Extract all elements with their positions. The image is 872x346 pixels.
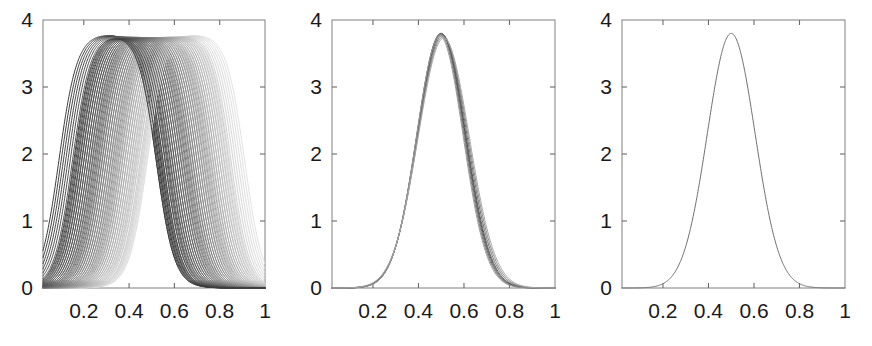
panel-right-frame bbox=[622, 20, 845, 288]
panel-middle-x-tick-label: 1 bbox=[549, 299, 561, 322]
panel-middle-y-tick-label: 2 bbox=[310, 142, 322, 165]
panel-middle-x-tick-label: 0.6 bbox=[449, 299, 478, 322]
panel-left-y-tick-label: 4 bbox=[21, 8, 33, 31]
panel-left-x-ticks bbox=[84, 20, 220, 288]
panel-right-x-tick-label: 1 bbox=[839, 299, 851, 322]
panel-middle-x-tick-labels: 0.20.40.60.81 bbox=[358, 299, 560, 322]
panel-middle-y-tick-label: 0 bbox=[310, 276, 322, 299]
panel-left-y-tick-label: 0 bbox=[21, 276, 33, 299]
panel-right: 0.20.40.60.8101234 bbox=[580, 0, 872, 346]
panel-right-y-ticks bbox=[622, 87, 845, 221]
panel-right-x-tick-label: 0.2 bbox=[648, 299, 677, 322]
panel-left-x-tick-label: 0.2 bbox=[69, 299, 98, 322]
panel-left-y-tick-label: 1 bbox=[21, 209, 33, 232]
panel-middle-x-tick-label: 0.4 bbox=[404, 299, 434, 322]
panel-left-canvas: 0.20.40.60.8101234 bbox=[0, 0, 290, 346]
panel-middle-curve bbox=[332, 36, 555, 288]
panel-middle-y-tick-label: 3 bbox=[310, 75, 322, 98]
panel-middle-frame bbox=[332, 20, 555, 288]
panel-middle-y-tick-label: 4 bbox=[310, 8, 322, 31]
panel-middle-canvas: 0.20.40.60.8101234 bbox=[290, 0, 580, 346]
panel-left-y-tick-label: 2 bbox=[21, 142, 33, 165]
panel-middle-y-ticks bbox=[332, 87, 555, 221]
panel-left-curves bbox=[43, 36, 265, 288]
panel-left-x-tick-labels: 0.20.40.60.81 bbox=[69, 299, 271, 322]
panel-right-x-tick-label: 0.4 bbox=[694, 299, 724, 322]
panel-middle-curve bbox=[332, 37, 555, 288]
panel-middle-x-tick-label: 0.2 bbox=[358, 299, 387, 322]
panel-left-x-tick-label: 0.4 bbox=[114, 299, 144, 322]
panel-right-x-tick-label: 0.6 bbox=[739, 299, 768, 322]
panel-right-x-tick-label: 0.8 bbox=[785, 299, 814, 322]
panel-right-canvas: 0.20.40.60.8101234 bbox=[580, 0, 872, 346]
panel-middle-curve bbox=[332, 35, 555, 288]
panel-left-x-tick-label: 1 bbox=[259, 299, 271, 322]
panel-middle-x-tick-label: 0.8 bbox=[495, 299, 524, 322]
panel-middle-curve bbox=[332, 33, 555, 288]
panel-right-y-tick-label: 3 bbox=[600, 75, 612, 98]
panel-middle-curve bbox=[332, 34, 555, 288]
panel-right-y-tick-label: 4 bbox=[600, 8, 612, 31]
panel-right-y-tick-label: 0 bbox=[600, 276, 612, 299]
panel-left-y-tick-label: 3 bbox=[21, 75, 33, 98]
panel-right-x-ticks bbox=[663, 20, 800, 288]
panel-middle-curve bbox=[332, 35, 555, 288]
panel-left-x-tick-label: 0.6 bbox=[160, 299, 189, 322]
panel-right-curves bbox=[622, 33, 845, 288]
panel-right-curve bbox=[622, 33, 845, 288]
panel-middle: 0.20.40.60.8101234 bbox=[290, 0, 580, 346]
panel-right-y-tick-labels: 01234 bbox=[600, 8, 612, 299]
panel-left-y-tick-labels: 01234 bbox=[21, 8, 33, 299]
panel-right-x-tick-labels: 0.20.40.60.81 bbox=[648, 299, 850, 322]
panel-middle-curves bbox=[332, 33, 555, 288]
multi-panel-figure: 0.20.40.60.8101234 0.20.40.60.8101234 0.… bbox=[0, 0, 872, 346]
panel-right-y-tick-label: 1 bbox=[600, 209, 612, 232]
panel-middle-y-tick-labels: 01234 bbox=[310, 8, 322, 299]
panel-right-y-tick-label: 2 bbox=[600, 142, 612, 165]
panel-left: 0.20.40.60.8101234 bbox=[0, 0, 290, 346]
panel-middle-y-tick-label: 1 bbox=[310, 209, 322, 232]
panel-middle-curve bbox=[332, 38, 555, 288]
panel-left-x-tick-label: 0.8 bbox=[205, 299, 234, 322]
panel-middle-curve bbox=[332, 33, 555, 288]
